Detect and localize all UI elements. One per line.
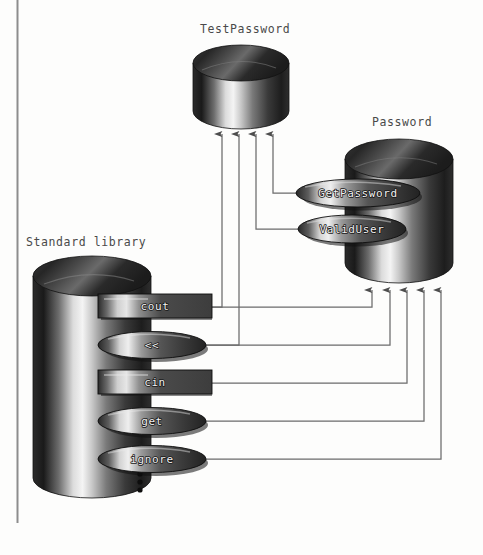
connector-ignore-password xyxy=(206,290,441,459)
connector-cout-password xyxy=(212,290,372,307)
label-testpassword: TestPassword xyxy=(200,22,290,36)
interface-shiftleft-label: << xyxy=(145,339,159,352)
interface-cout-label: cout xyxy=(141,300,170,313)
diagram-canvas: GetPassword ValidUser xyxy=(0,0,483,555)
interface-validuser[interactable]: ValidUser xyxy=(298,215,408,247)
component-password[interactable] xyxy=(345,139,453,283)
connector-shiftleft-password xyxy=(206,290,390,345)
connector-validuser-testpassword xyxy=(256,134,298,229)
connector-cout-testpassword xyxy=(212,134,222,307)
interface-get-label: get xyxy=(141,415,163,428)
label-standard-library: Standard library xyxy=(26,235,146,249)
connector-cin-password xyxy=(212,290,407,383)
component-testpassword[interactable] xyxy=(193,45,289,129)
connector-getpassword-testpassword xyxy=(273,134,300,193)
interface-cin[interactable]: cin xyxy=(98,370,212,396)
interface-cout[interactable]: cout xyxy=(98,294,212,320)
interface-validuser-label: ValidUser xyxy=(319,223,384,236)
interface-ignore-label: ignore xyxy=(130,453,173,466)
diagram-svg: GetPassword ValidUser xyxy=(0,0,483,555)
label-password: Password xyxy=(372,115,432,129)
interface-getpassword-label: GetPassword xyxy=(318,187,397,200)
interface-cin-label: cin xyxy=(144,376,166,389)
interface-getpassword[interactable]: GetPassword xyxy=(296,179,422,211)
